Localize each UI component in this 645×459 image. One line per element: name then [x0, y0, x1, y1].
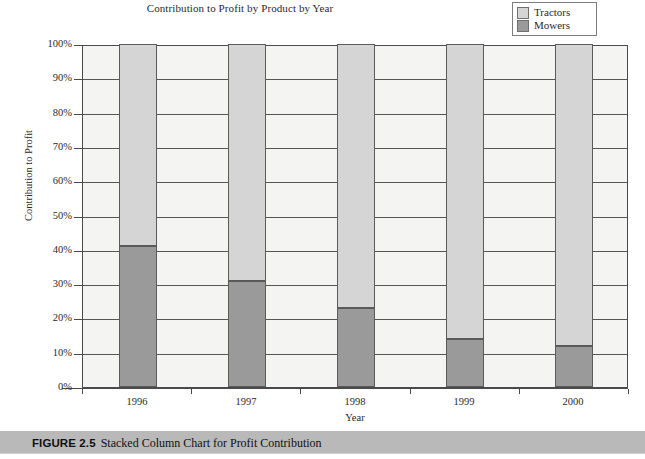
bar-segment-mowers — [228, 281, 266, 387]
chart-title: Contribution to Profit by Product by Yea… — [0, 2, 480, 14]
y-tick-mark — [74, 148, 82, 149]
figure-container: Contribution to Profit by Product by Yea… — [0, 0, 645, 459]
y-tick-mark — [74, 251, 82, 252]
figure-caption: FIGURE 2.5Stacked Column Chart for Profi… — [0, 433, 322, 451]
x-tick-label: 2000 — [543, 396, 603, 407]
caption-divider — [0, 453, 645, 454]
x-tick-label: 1997 — [216, 396, 276, 407]
x-tick-label: 1999 — [434, 396, 494, 407]
bar-segment-tractors — [228, 44, 266, 281]
y-tick-label: 0% — [28, 381, 72, 392]
legend-swatch-tractors — [517, 7, 529, 19]
bar-segment-tractors — [555, 44, 593, 346]
y-tick-label: 10% — [28, 347, 72, 358]
legend-item-mowers: Mowers — [517, 19, 592, 32]
bar-column — [119, 44, 157, 387]
plot-area — [82, 45, 628, 388]
x-axis-line — [62, 388, 628, 389]
figure-number: FIGURE 2.5 — [32, 437, 96, 449]
figure-caption-bar: FIGURE 2.5Stacked Column Chart for Profi… — [0, 431, 645, 453]
y-tick-label: 80% — [28, 107, 72, 118]
y-tick-mark — [74, 319, 82, 320]
y-tick-label: 90% — [28, 72, 72, 83]
y-tick-label: 30% — [28, 278, 72, 289]
x-tick-label: 1998 — [325, 396, 385, 407]
y-axis-line — [82, 45, 83, 389]
y-tick-mark — [74, 388, 82, 389]
legend-swatch-mowers — [517, 20, 529, 32]
bar-column — [337, 44, 375, 387]
y-tick-label: 40% — [28, 244, 72, 255]
y-tick-mark — [74, 45, 82, 46]
y-tick-label: 50% — [28, 210, 72, 221]
y-tick-mark — [74, 217, 82, 218]
y-tick-mark — [74, 79, 82, 80]
y-tick-mark — [74, 285, 82, 286]
y-tick-mark — [74, 182, 82, 183]
bar-segment-tractors — [337, 44, 375, 308]
x-tick-label: 1996 — [107, 396, 167, 407]
legend-item-tractors: Tractors — [517, 6, 592, 19]
y-tick-mark — [74, 354, 82, 355]
x-tick-mark — [82, 389, 83, 394]
y-tick-mark — [74, 114, 82, 115]
bar-segment-tractors — [446, 44, 484, 339]
bar-column — [228, 44, 266, 387]
legend-label-mowers: Mowers — [534, 19, 570, 32]
y-axis-label: Contribution to Profit — [23, 86, 34, 266]
x-tick-mark — [628, 389, 629, 394]
x-tick-mark — [519, 389, 520, 394]
legend-label-tractors: Tractors — [534, 6, 570, 19]
figure-caption-text: Stacked Column Chart for Profit Contribu… — [101, 436, 322, 450]
y-tick-label: 60% — [28, 175, 72, 186]
x-tick-mark — [300, 389, 301, 394]
bar-segment-mowers — [337, 308, 375, 387]
chart-legend: Tractors Mowers — [512, 2, 597, 36]
y-tick-label: 100% — [28, 38, 72, 49]
x-tick-mark — [410, 389, 411, 394]
bar-segment-mowers — [446, 339, 484, 387]
x-axis-label: Year — [82, 412, 628, 423]
y-tick-label: 20% — [28, 312, 72, 323]
bar-segment-mowers — [555, 346, 593, 387]
bar-segment-tractors — [119, 44, 157, 246]
bar-column — [446, 44, 484, 387]
bar-segment-mowers — [119, 246, 157, 387]
y-tick-label: 70% — [28, 141, 72, 152]
x-tick-mark — [191, 389, 192, 394]
bar-column — [555, 44, 593, 387]
